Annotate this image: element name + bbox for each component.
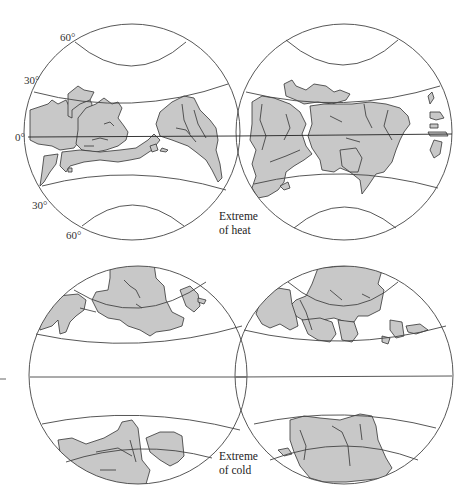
caption-extreme-of-heat: Extreme of heat	[219, 209, 258, 237]
caption-extreme-of-cold: Extreme of cold	[219, 449, 258, 477]
globe-cold-east	[235, 264, 453, 484]
globe-cold-west	[0, 264, 247, 486]
land-masses	[256, 264, 428, 482]
caption-line: Extreme	[219, 449, 258, 463]
caption-line: Extreme	[219, 209, 258, 223]
label-equator: 0°	[15, 131, 25, 143]
equator	[236, 376, 452, 377]
latitude-60s	[82, 205, 184, 226]
label-latitude-60n: 60°	[60, 31, 75, 43]
latitude-30s	[42, 415, 240, 430]
label-latitude-60s: 60°	[66, 229, 81, 241]
caption-line: of heat	[219, 223, 258, 237]
paleogeography-figure	[0, 0, 464, 494]
latitude-30s	[42, 175, 226, 190]
globe-heat-east	[236, 24, 452, 240]
caption-line: of cold	[219, 463, 258, 477]
label-latitude-30s: 30°	[32, 199, 47, 211]
globe-heat-west	[24, 24, 240, 240]
label-latitude-30n: 30°	[24, 74, 39, 86]
latitude-60s	[294, 207, 396, 228]
latitude-30n	[34, 84, 228, 103]
latitude-60n	[286, 40, 398, 65]
latitude-60n	[75, 42, 186, 66]
